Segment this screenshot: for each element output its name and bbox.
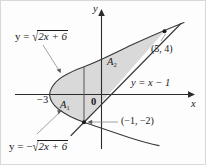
leader-line-upper-curve bbox=[43, 45, 60, 72]
x-axis-arrowhead bbox=[188, 91, 195, 98]
graph-figure: y = √2x + 6 y = −√2x + 6 y = x − 1 (5, 4… bbox=[0, 0, 206, 165]
label-x-tick-neg3: −3 bbox=[37, 95, 48, 106]
label-origin: 0 bbox=[91, 97, 96, 108]
label-curve-lower-radicand: 2x + 6 bbox=[37, 140, 68, 152]
label-region-a1: A1 bbox=[60, 100, 70, 111]
label-point-neg1-neg2: (−1, −2) bbox=[121, 116, 154, 126]
radical-sign-upper: √ bbox=[32, 30, 38, 44]
label-region-a2-subscript: 2 bbox=[113, 61, 116, 68]
label-curve-upper-radicand: 2x + 6 bbox=[37, 30, 68, 42]
leader-line-lower-curve bbox=[37, 111, 61, 134]
label-curve-lower-lhs: y = − bbox=[9, 140, 32, 152]
label-region-a1-subscript: 1 bbox=[66, 104, 69, 111]
label-curve-upper: y = √2x + 6 bbox=[15, 30, 68, 42]
y-axis-arrowhead bbox=[98, 9, 105, 16]
label-curve-upper-lhs: y = bbox=[15, 30, 29, 42]
radical-sign-lower: √ bbox=[32, 140, 38, 154]
label-line-equation: y = x − 1 bbox=[131, 78, 170, 89]
label-point-5-4: (5, 4) bbox=[151, 44, 173, 54]
leader-arrowhead-upper-curve bbox=[57, 69, 61, 74]
label-y-axis: y bbox=[93, 4, 98, 15]
label-curve-lower: y = −√2x + 6 bbox=[9, 140, 68, 152]
label-region-a2: A2 bbox=[107, 57, 117, 68]
point-marker-neg1-neg2 bbox=[82, 120, 86, 124]
label-x-axis: x bbox=[191, 99, 196, 110]
point-marker-5-4 bbox=[163, 29, 167, 33]
